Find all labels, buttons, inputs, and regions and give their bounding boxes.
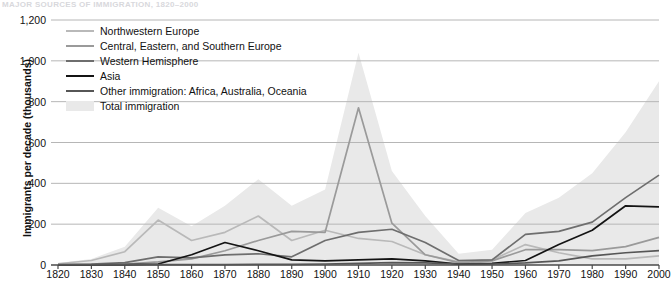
x-axis-tick-label: 1990 [614,268,637,280]
x-axis-tick-label: 2000 [647,268,670,280]
x-axis-tick-label: 1930 [414,268,437,280]
x-axis-tick-label: 1980 [581,268,604,280]
y-axis-tick-label: 800 [2,96,46,108]
legend-swatch-icon [66,75,94,77]
legend-item-label: Central, Eastern, and Southern Europe [100,40,282,52]
legend-swatch-icon [66,30,94,32]
x-axis-tick-label: 1860 [180,268,203,280]
x-axis-tick-label: 1880 [247,268,270,280]
x-axis-tick-label: 1910 [347,268,370,280]
x-axis-tick-label: 1840 [113,268,136,280]
legend-item-other-immigration-africa-australia-oceania[interactable]: Other immigration: Africa, Australia, Oc… [66,84,307,97]
x-axis-tick-label: 1900 [313,268,336,280]
legend-item-asia[interactable]: Asia [66,69,307,82]
x-axis-tick-label: 1920 [380,268,403,280]
legend-item-label: Northwestern Europe [100,25,199,37]
x-axis-tick-label: 1820 [46,268,69,280]
legend-swatch-icon [66,45,94,47]
legend-swatch-icon [66,90,94,92]
y-axis-tick-label: 600 [2,137,46,149]
chart-legend: Northwestern EuropeCentral, Eastern, and… [66,24,307,112]
legend-item-northwestern-europe[interactable]: Northwestern Europe [66,24,307,37]
x-axis-tick-label: 1830 [80,268,103,280]
legend-swatch-icon [66,101,94,111]
legend-item-label: Total immigration [100,100,179,112]
legend-item-total-immigration[interactable]: Total immigration [66,99,307,112]
y-axis-tick-label: 1,000 [2,55,46,67]
x-axis-tick-label: 1940 [447,268,470,280]
x-axis-tick-label: 1890 [280,268,303,280]
legend-item-western-hemisphere[interactable]: Western Hemisphere [66,54,307,67]
legend-item-central-eastern-and-southern-europe[interactable]: Central, Eastern, and Southern Europe [66,39,307,52]
x-axis-tick-label: 1870 [213,268,236,280]
x-axis-tick-label: 1970 [547,268,570,280]
legend-item-label: Other immigration: Africa, Australia, Oc… [100,85,307,97]
y-axis-tick-label: 200 [2,218,46,230]
legend-item-label: Western Hemisphere [100,55,198,67]
legend-swatch-icon [66,60,94,62]
y-axis-tick-label: 1,200 [2,14,46,26]
y-axis-ticks: 02004006008001,0001,200 [0,0,46,286]
x-axis-tick-label: 1960 [514,268,537,280]
y-axis-tick-label: 0 [2,259,46,271]
legend-item-label: Asia [100,70,120,82]
x-axis-tick-label: 1850 [146,268,169,280]
y-axis-tick-label: 400 [2,177,46,189]
x-axis-tick-label: 1950 [480,268,503,280]
